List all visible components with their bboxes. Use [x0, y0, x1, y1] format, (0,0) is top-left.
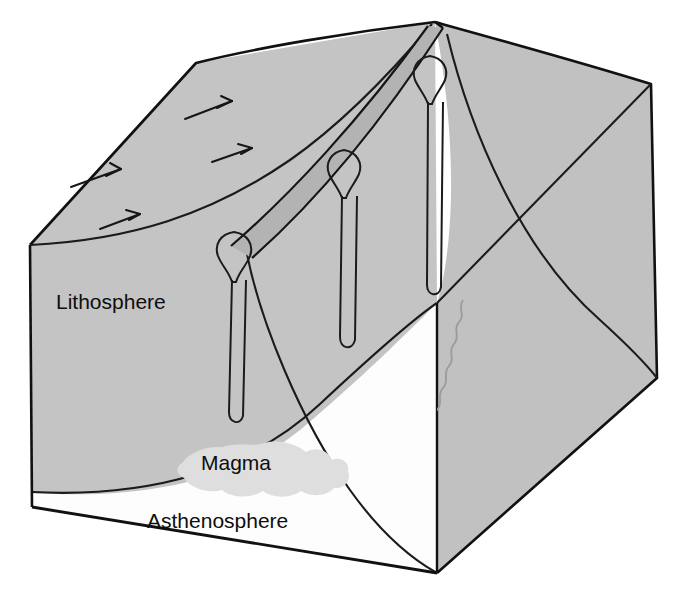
label-lithosphere: Lithosphere: [56, 290, 166, 313]
label-asthenosphere: Asthenosphere: [147, 509, 288, 532]
right-flank-group: [435, 22, 657, 573]
label-magma: Magma: [201, 451, 271, 474]
block-diagram-figure: Lithosphere Magma Asthenosphere: [0, 0, 673, 597]
block-diagram-svg: Lithosphere Magma Asthenosphere: [0, 0, 673, 597]
